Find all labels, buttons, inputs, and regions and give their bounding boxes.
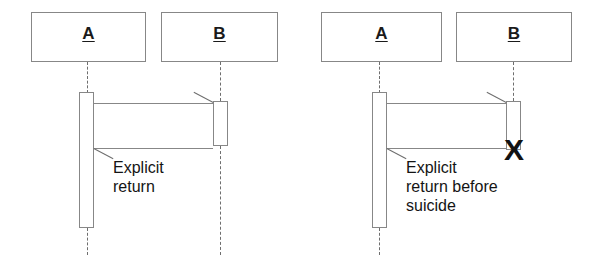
arrowhead-return-icon <box>94 148 114 159</box>
caption-left: Explicit return <box>113 158 213 196</box>
lifeline-b-upper <box>220 62 221 101</box>
object-box-a[interactable]: A <box>31 12 146 62</box>
arrowhead-call-icon-2 <box>487 92 507 103</box>
caption-right: Explicit return before suicide <box>406 158 551 215</box>
arrowhead-call-icon <box>194 92 214 103</box>
message-call-a-to-b <box>94 103 213 104</box>
message-call-a-to-b-2 <box>387 103 506 104</box>
activation-bar-a-2 <box>372 92 387 228</box>
object-label-a-2: A <box>322 24 441 44</box>
sequence-diagram-figure: A B Explicit return A <box>0 0 595 255</box>
object-box-a-2[interactable]: A <box>321 12 442 62</box>
lifeline-a-upper-2 <box>379 62 380 93</box>
object-box-b[interactable]: B <box>161 12 278 62</box>
message-return-b-to-a-2 <box>387 148 506 149</box>
object-label-b: B <box>162 24 277 44</box>
lifeline-a-lower-2 <box>379 228 380 255</box>
lifeline-a-upper <box>87 62 88 93</box>
activation-bar-b <box>213 101 228 146</box>
object-box-b-2[interactable]: B <box>456 12 572 62</box>
lifeline-b-lower <box>220 146 221 255</box>
lifeline-b-upper-2 <box>513 62 514 101</box>
activation-bar-a <box>79 92 94 228</box>
object-label-a: A <box>32 24 145 44</box>
message-return-b-to-a <box>94 148 213 149</box>
lifeline-a-lower <box>87 228 88 255</box>
object-label-b-2: B <box>457 24 571 44</box>
arrowhead-return-icon-2 <box>387 148 407 159</box>
